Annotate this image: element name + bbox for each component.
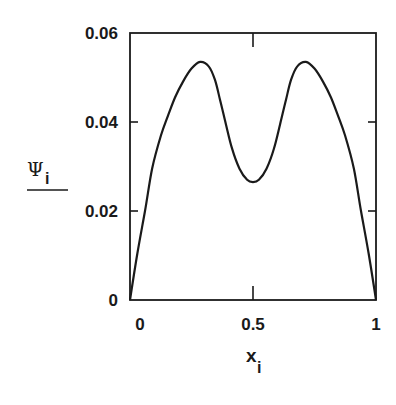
y-axis-label-main: Ψ bbox=[27, 158, 44, 180]
y-axis-label: Ψ i bbox=[27, 158, 68, 190]
y-tick-labels: 00.020.040.06 bbox=[85, 24, 119, 310]
plot-frame bbox=[130, 33, 376, 300]
x-axis-label-main: x bbox=[246, 345, 257, 366]
svg-text:Ψ: Ψ bbox=[27, 158, 44, 180]
data-line bbox=[130, 62, 376, 300]
x-tick-label: 0.5 bbox=[241, 315, 265, 334]
y-tick-label: 0.06 bbox=[85, 24, 118, 43]
x-tick-label: 1 bbox=[371, 315, 380, 334]
y-tick-label: 0.02 bbox=[85, 202, 118, 221]
x-tick-label: 0 bbox=[135, 315, 144, 334]
x-axis-label: x i bbox=[246, 345, 261, 376]
y-axis-label-subscript: i bbox=[45, 170, 49, 187]
y-tick-label: 0.04 bbox=[85, 113, 119, 132]
y-tick-label: 0 bbox=[109, 291, 118, 310]
x-tick-labels: 00.51 bbox=[135, 315, 380, 334]
plot-border bbox=[130, 33, 376, 300]
svg-text:i: i bbox=[45, 170, 49, 187]
axis-ticks bbox=[130, 33, 376, 300]
chart: 00.020.040.06 00.51 Ψ i x i bbox=[0, 0, 396, 405]
x-axis-label-subscript: i bbox=[257, 359, 261, 376]
svg-text:x: x bbox=[246, 345, 257, 366]
svg-text:i: i bbox=[257, 359, 261, 376]
